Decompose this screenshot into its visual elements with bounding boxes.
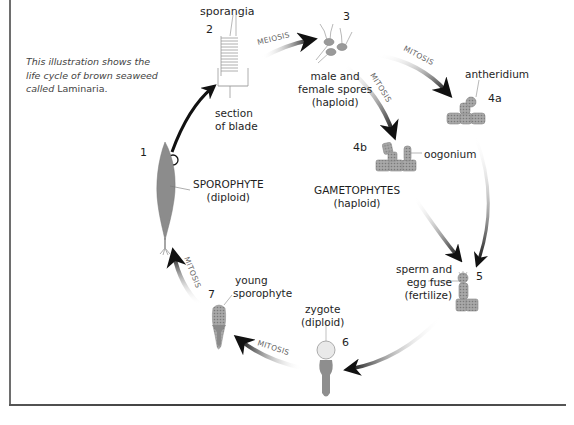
caption-line-2: life cycle of brown seaweed bbox=[26, 69, 158, 83]
stage-number-3: 3 bbox=[343, 10, 350, 23]
stage-number-1: 1 bbox=[140, 146, 147, 159]
arrow-fertilization-to-zygote bbox=[350, 318, 440, 369]
stage-number-4a: 4a bbox=[488, 92, 502, 105]
caption-line-1: This illustration shows the bbox=[26, 55, 158, 69]
sporophyte-title: SPOROPHYTE bbox=[193, 178, 264, 191]
fertilize-line-2: egg fuse bbox=[396, 276, 452, 289]
section-line-1: section bbox=[215, 107, 258, 120]
zygote-title: zygote bbox=[301, 303, 344, 316]
caption-prefix: called bbox=[26, 83, 54, 94]
spores-line-2: female spores bbox=[298, 83, 372, 96]
antheridium-illustration bbox=[447, 80, 485, 124]
label-section-of-blade: section of blade bbox=[215, 107, 258, 133]
zygote-ploidy: (diploid) bbox=[301, 316, 344, 329]
label-young-sporophyte: young sporophyte bbox=[233, 274, 292, 300]
spores-line-1: male and bbox=[298, 70, 372, 83]
section-line-2: of blade bbox=[215, 120, 258, 133]
spores-illustration bbox=[316, 24, 352, 63]
gametophytes-ploidy: (haploid) bbox=[314, 197, 400, 210]
blade-section-illustration bbox=[218, 15, 248, 98]
arrow-oogonium-to-fertilization bbox=[415, 198, 458, 257]
young-sporophyte-illustration bbox=[212, 295, 232, 349]
fertilize-line-3: (fertilize) bbox=[396, 289, 452, 302]
label-sporophyte: SPOROPHYTE (diploid) bbox=[193, 178, 264, 204]
arrow-sporophyte-to-sporangia bbox=[172, 88, 212, 152]
oogonium-illustration bbox=[376, 142, 422, 171]
caption-genus: Laminaria. bbox=[57, 83, 107, 94]
label-oogonium: oogonium bbox=[424, 148, 476, 161]
label-fertilization: sperm and egg fuse (fertilize) bbox=[396, 263, 452, 302]
label-antheridium: antheridium bbox=[465, 68, 529, 81]
caption: This illustration shows the life cycle o… bbox=[26, 55, 158, 96]
stage-number-6: 6 bbox=[342, 336, 349, 349]
sporophyte-ploidy: (diploid) bbox=[193, 191, 264, 204]
label-gametophytes: GAMETOPHYTES (haploid) bbox=[314, 184, 400, 210]
spores-line-3: (haploid) bbox=[298, 96, 372, 109]
young-line-2: sporophyte bbox=[233, 287, 292, 300]
stage-number-5: 5 bbox=[476, 270, 483, 283]
label-spores: male and female spores (haploid) bbox=[298, 70, 372, 109]
arrow-antheridium-to-fertilization bbox=[475, 135, 488, 262]
zygote-illustration bbox=[317, 320, 335, 397]
young-line-1: young bbox=[233, 274, 292, 287]
label-zygote: zygote (diploid) bbox=[301, 303, 344, 329]
label-sporangia: sporangia bbox=[200, 5, 254, 18]
gametophytes-title: GAMETOPHYTES bbox=[314, 184, 400, 197]
label-meiosis: MEIOSIS bbox=[256, 30, 290, 47]
stage-number-4b: 4b bbox=[353, 141, 367, 154]
arrow-mitosis-3-4a bbox=[378, 55, 447, 92]
caption-line-3: called Laminaria. bbox=[26, 82, 158, 96]
fertilize-line-1: sperm and bbox=[396, 263, 452, 276]
stage-number-7: 7 bbox=[208, 288, 215, 301]
stage-number-2: 2 bbox=[206, 23, 213, 36]
